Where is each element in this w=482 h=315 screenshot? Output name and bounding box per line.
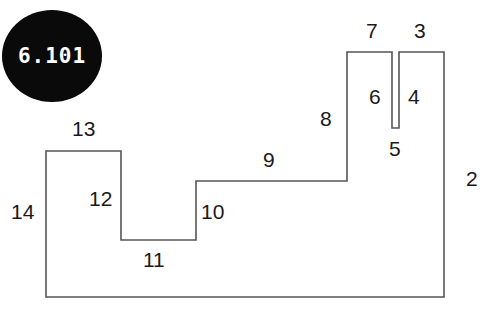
label-14: 14 — [11, 201, 34, 222]
label-9: 9 — [263, 149, 275, 170]
course-badge-label: 6.101 — [18, 46, 86, 67]
label-12: 12 — [89, 188, 112, 209]
label-3: 3 — [414, 20, 426, 41]
figure-canvas: 6.101 234567891011121314 — [0, 0, 482, 315]
label-2: 2 — [466, 168, 478, 189]
label-11: 11 — [143, 249, 165, 270]
label-6: 6 — [369, 86, 381, 107]
polygon-outline — [46, 52, 444, 297]
label-7: 7 — [366, 20, 378, 41]
label-5: 5 — [389, 138, 401, 159]
label-4: 4 — [408, 86, 420, 107]
label-10: 10 — [201, 201, 224, 222]
label-13: 13 — [72, 118, 95, 139]
label-8: 8 — [320, 108, 332, 129]
